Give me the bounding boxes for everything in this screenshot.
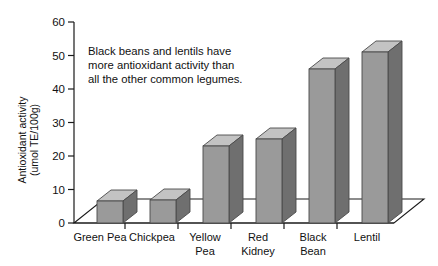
bar-lentil-front	[362, 52, 388, 223]
y-tick-label-60: 60	[52, 16, 65, 28]
x-label-yellow-pea-line1: Yellow	[189, 231, 220, 243]
callout-note-line2: more antioxidant activity than	[88, 59, 234, 71]
x-tick-labels: Green Pea Chickpea Yellow Pea Red Kidney…	[73, 231, 380, 257]
antioxidant-bar-chart: 60 50 40 30 20 10 0 Antioxidant activity…	[0, 0, 438, 266]
y-axis-title-line2: (umol TE/100g)	[28, 104, 40, 176]
y-axis-title-line1: Antioxidant activity	[16, 96, 28, 184]
x-label-lentil: Lentil	[354, 231, 380, 243]
x-axis	[74, 223, 394, 229]
y-tick-label-0: 0	[59, 217, 65, 229]
y-tick-label-40: 40	[52, 83, 65, 95]
bar-yellow-pea-side	[229, 135, 243, 223]
y-tick-label-20: 20	[52, 150, 65, 162]
x-label-red-kidney-line1: Red	[248, 231, 268, 243]
x-label-black-bean-line2: Bean	[300, 245, 326, 257]
bar-black-bean-side	[335, 58, 349, 223]
x-label-yellow-pea-line2: Pea	[195, 245, 215, 257]
bar-black-bean-front	[309, 69, 335, 223]
bar-chickpea-front	[150, 200, 176, 223]
bar-yellow-pea	[203, 135, 243, 223]
bar-yellow-pea-front	[203, 146, 229, 223]
bar-red-kidney-side	[282, 128, 296, 223]
x-label-chickpea: Chickpea	[129, 231, 176, 243]
y-axis: 60 50 40 30 20 10 0	[52, 16, 74, 229]
bar-green-pea	[97, 190, 137, 223]
y-tick-label-30: 30	[52, 117, 65, 129]
x-label-red-kidney-line2: Kidney	[241, 245, 275, 257]
bar-green-pea-front	[97, 201, 123, 223]
bar-red-kidney-front	[256, 139, 282, 223]
bar-lentil-side	[388, 41, 402, 223]
bar-black-bean	[309, 58, 349, 223]
x-label-green-pea: Green Pea	[73, 231, 127, 243]
callout-note: Black beans and lentils have more antiox…	[88, 45, 242, 85]
y-tick-label-10: 10	[52, 184, 65, 196]
bar-chickpea	[150, 189, 190, 223]
x-label-black-bean-line1: Black	[300, 231, 327, 243]
y-tick-label-50: 50	[52, 50, 65, 62]
callout-note-line1: Black beans and lentils have	[88, 45, 231, 57]
bar-lentil	[362, 41, 402, 223]
chart-svg: 60 50 40 30 20 10 0 Antioxidant activity…	[0, 0, 438, 266]
bar-red-kidney	[256, 128, 296, 223]
callout-note-line3: all the other common legumes.	[88, 73, 242, 85]
y-axis-title: Antioxidant activity (umol TE/100g)	[16, 96, 40, 184]
